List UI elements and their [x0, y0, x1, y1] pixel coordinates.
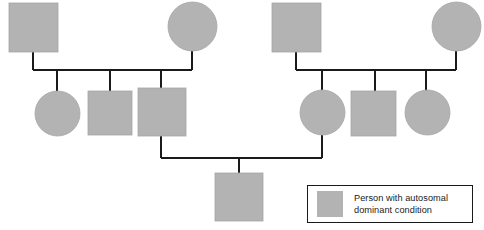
person-g2-left-child-2	[88, 91, 132, 135]
person-g2-right-child-3	[405, 90, 450, 135]
legend-swatch-affected	[317, 191, 343, 217]
person-g2-right-child-1	[300, 90, 345, 135]
person-g1-left-mother	[168, 2, 217, 51]
person-g1-right-mother	[432, 2, 481, 51]
person-g1-right-father	[272, 3, 321, 52]
pedigree-chart: Person with autosomal dominant condition	[0, 0, 484, 230]
person-g1-left-father	[9, 3, 58, 52]
person-g2-right-child-2	[351, 91, 396, 136]
person-g2-left-child-1	[35, 91, 80, 136]
legend-label: Person with autosomal dominant condition	[354, 192, 472, 217]
person-g2-left-child-3	[138, 88, 186, 136]
person-g3-child	[215, 173, 263, 221]
legend: Person with autosomal dominant condition	[307, 185, 473, 223]
